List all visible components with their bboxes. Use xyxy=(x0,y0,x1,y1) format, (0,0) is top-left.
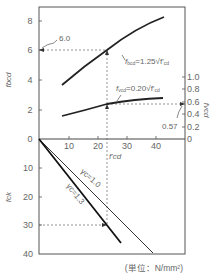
y-top-label: fbcd xyxy=(4,72,13,88)
tick-left-2: 2 xyxy=(27,105,32,115)
tick-x-10: 10 xyxy=(64,141,74,151)
formula-fvcd: fvcd=0.20√f'cd xyxy=(116,84,160,93)
annotation-0.57: 0.57 xyxy=(162,122,178,131)
nomograph-chart: 8 6 4 2 0 10 20 30 40 10 20 30 40 1.0 0.… xyxy=(0,0,215,277)
tick-x-30: 30 xyxy=(122,141,132,151)
tick-left-4: 4 xyxy=(27,75,32,85)
curve-fvcd xyxy=(62,98,163,116)
tick-x-20: 20 xyxy=(93,141,103,151)
tick-left-0: 0 xyxy=(27,134,32,144)
x-mid-label: f'cd xyxy=(109,152,122,161)
leader-fvcd xyxy=(117,95,121,101)
tick-right-0.2: 0.2 xyxy=(187,122,200,132)
tick-left-6: 6 xyxy=(27,45,32,55)
y-bottom-label: fck xyxy=(4,191,13,202)
tick-right-0.4: 0.4 xyxy=(187,109,200,119)
tick-x-40: 40 xyxy=(151,141,161,151)
annotation-6.0: 6.0 xyxy=(59,34,71,43)
curve-fbcd xyxy=(62,17,164,85)
tick-right-0.8: 0.8 xyxy=(187,84,200,94)
unit-label: (単位：N/mm²) xyxy=(125,263,183,273)
tick-right-0: 0 xyxy=(187,134,192,144)
arrow-right-057 xyxy=(180,102,185,106)
reference-dashes xyxy=(39,50,185,225)
leader-057 xyxy=(177,106,182,118)
arrow-left-6 xyxy=(39,48,44,52)
tick-right-0.6: 0.6 xyxy=(187,97,200,107)
tick-fck-40: 40 xyxy=(23,249,33,259)
tick-right-1.0: 1.0 xyxy=(187,72,200,82)
leader-6 xyxy=(42,40,57,48)
label-gamma-1.0: γc=1.0 xyxy=(79,167,103,190)
formula-fbcd: fbcd=1.25√f'cd xyxy=(125,57,169,66)
y-right-label: fvcd xyxy=(202,103,211,118)
tick-fck-20: 20 xyxy=(23,192,33,202)
tick-left-8: 8 xyxy=(27,16,32,26)
tick-fck-10: 10 xyxy=(23,163,33,173)
line-gamma-1.0 xyxy=(39,139,153,253)
tick-fck-30: 30 xyxy=(23,220,33,230)
